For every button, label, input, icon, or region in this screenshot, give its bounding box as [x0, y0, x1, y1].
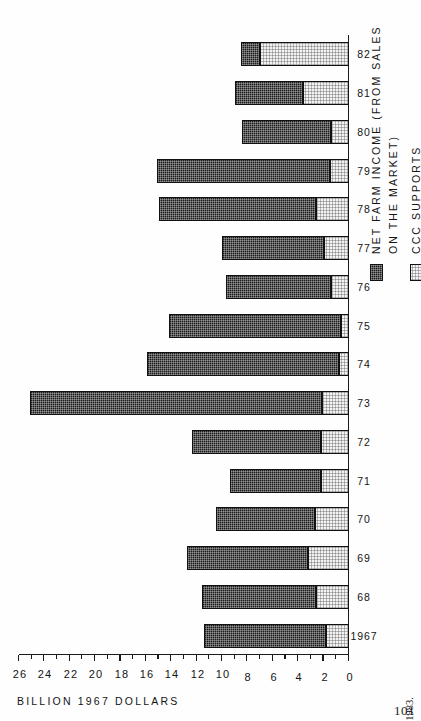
- bar-segment-ccc-supports: [316, 197, 349, 221]
- value-tick-major-22: [68, 655, 69, 661]
- chart-legend: NET FARM INCOME (FROM SALES ON THE MARKE…: [369, 11, 421, 281]
- value-tick-major-8: [246, 655, 247, 661]
- bar-segment-ccc-supports: [338, 352, 348, 376]
- value-tick-minor-5: [284, 655, 285, 659]
- bar-group: [204, 623, 349, 647]
- legend-label-net-farm-income-line2: ON THE MARKET): [387, 134, 399, 253]
- category-label-76: 76: [357, 280, 370, 292]
- bar-segment-net-farm-income: [158, 197, 315, 221]
- bar-segment-ccc-supports: [321, 429, 349, 453]
- value-tick-minor-9: [233, 655, 234, 659]
- bar-group: [147, 352, 349, 376]
- light-stipple-swatch: [410, 264, 421, 281]
- value-tick-label-22: 22: [63, 667, 77, 679]
- bar-group: [222, 236, 349, 260]
- dark-checkerboard-swatch: [370, 264, 383, 281]
- bar-segment-ccc-supports: [323, 236, 348, 260]
- value-tick-label-6: 6: [270, 671, 277, 683]
- value-tick-major-24: [43, 655, 44, 661]
- legend-item-ccc-supports: CCC SUPPORTS: [409, 11, 421, 281]
- legend-item-net-farm-income: NET FARM INCOME (FROM SALES: [369, 11, 386, 281]
- value-tick-major-12: [195, 655, 196, 661]
- value-tick-major-20: [93, 655, 94, 661]
- legend-label-net-farm-income-line1: NET FARM INCOME (FROM SALES: [370, 25, 382, 254]
- legend-spacer: [403, 11, 409, 281]
- bar-segment-ccc-supports: [329, 158, 348, 182]
- bar-segment-net-farm-income: [229, 468, 320, 492]
- bar-group: [186, 546, 348, 570]
- bar-segment-ccc-supports: [260, 42, 349, 66]
- category-label-1967: 1967: [350, 629, 377, 641]
- legend-item-net-farm-income-line2: ON THE MARKET): [386, 11, 403, 281]
- value-tick-minor-25: [30, 655, 31, 659]
- bar-segment-ccc-supports: [322, 391, 349, 415]
- bar-segment-ccc-supports: [321, 468, 349, 492]
- value-tick-minor-3: [309, 655, 310, 659]
- bar-segment-net-farm-income: [168, 313, 341, 337]
- bar-group: [215, 507, 348, 531]
- bar-segment-net-farm-income: [222, 236, 324, 260]
- value-tick-major-14: [170, 655, 171, 661]
- value-tick-major-0: [347, 655, 348, 661]
- value-tick-minor-19: [106, 655, 107, 659]
- value-axis-title: BILLION 1967 DOLLARS: [17, 695, 179, 707]
- category-label-68: 68: [357, 590, 370, 602]
- value-tick-major-2: [322, 655, 323, 661]
- value-tick-minor-1: [335, 655, 336, 659]
- bar-segment-ccc-supports: [326, 623, 349, 647]
- category-label-69: 69: [357, 552, 370, 564]
- value-tick-label-2: 2: [321, 671, 328, 683]
- bar-group: [158, 197, 348, 221]
- value-tick-label-0: 0: [346, 671, 353, 683]
- bar-group: [191, 429, 348, 453]
- bar-segment-net-farm-income: [234, 81, 303, 105]
- value-tick-label-26: 26: [12, 667, 26, 679]
- bar-group: [30, 391, 349, 415]
- bar-segment-net-farm-income: [147, 352, 339, 376]
- value-tick-label-10: 10: [215, 667, 229, 679]
- value-tick-label-14: 14: [165, 667, 179, 679]
- value-tick-major-18: [119, 655, 120, 661]
- category-label-74: 74: [357, 358, 370, 370]
- value-tick-label-18: 18: [114, 667, 128, 679]
- bar-group: [157, 158, 349, 182]
- bar-segment-net-farm-income: [157, 158, 330, 182]
- bar-group: [168, 313, 348, 337]
- bar-segment-ccc-supports: [308, 546, 349, 570]
- bar-segment-ccc-supports: [331, 274, 349, 298]
- bar-segment-net-farm-income: [191, 429, 320, 453]
- value-tick-minor-23: [55, 655, 56, 659]
- bar-group: [201, 584, 348, 608]
- chart-rotation-wrapper: 1967686970717273747576777879808182262422…: [0, 0, 421, 721]
- bar-segment-net-farm-income: [242, 119, 331, 143]
- page-number: 101: [394, 703, 415, 719]
- value-tick-label-24: 24: [38, 667, 52, 679]
- bar-group: [225, 274, 348, 298]
- category-label-72: 72: [357, 435, 370, 447]
- value-tick-major-4: [297, 655, 298, 661]
- value-tick-minor-11: [208, 655, 209, 659]
- value-tick-minor-15: [157, 655, 158, 659]
- category-label-75: 75: [357, 319, 370, 331]
- value-tick-major-10: [220, 655, 221, 661]
- category-label-70: 70: [357, 513, 370, 525]
- value-tick-minor-7: [258, 655, 259, 659]
- value-tick-minor-13: [182, 655, 183, 659]
- bar-segment-net-farm-income: [225, 274, 330, 298]
- bar-segment-net-farm-income: [30, 391, 322, 415]
- bar-segment-ccc-supports: [314, 507, 348, 531]
- bar-segment-ccc-supports: [303, 81, 349, 105]
- bar-segment-ccc-supports: [331, 119, 349, 143]
- value-tick-label-8: 8: [244, 671, 251, 683]
- value-tick-label-16: 16: [139, 667, 153, 679]
- bar-segment-ccc-supports: [316, 584, 349, 608]
- bar-segment-net-farm-income: [201, 584, 315, 608]
- bar-segment-net-farm-income: [241, 42, 260, 66]
- bar-group: [241, 42, 349, 66]
- value-tick-label-20: 20: [88, 667, 102, 679]
- bar-group: [229, 468, 348, 492]
- value-tick-minor-17: [132, 655, 133, 659]
- bar-group: [242, 119, 349, 143]
- bar-group: [234, 81, 348, 105]
- value-tick-label-4: 4: [295, 671, 302, 683]
